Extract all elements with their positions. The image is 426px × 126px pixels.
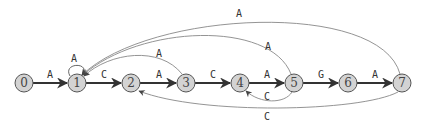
diagram-canvas: A C A C A G A A A A A C <box>0 0 426 126</box>
state-node-3: 3 <box>177 74 195 92</box>
edge-5-4: C <box>246 91 292 102</box>
state-label: 0 <box>20 76 28 90</box>
state-node-4: 4 <box>231 74 249 92</box>
state-label: 7 <box>398 76 406 90</box>
edge-label: A <box>47 69 53 80</box>
state-label: 2 <box>127 76 135 90</box>
edge-3-4: C <box>195 69 230 83</box>
edge-label: A <box>71 53 77 64</box>
edge-label: A <box>372 69 378 80</box>
edge-6-7: A <box>357 69 392 83</box>
edge-0-1: A <box>33 69 67 83</box>
edge-label: G <box>318 69 324 80</box>
edge-label: A <box>265 41 271 52</box>
edge-1-1-self-loop: A <box>69 53 84 76</box>
state-node-2: 2 <box>122 74 140 92</box>
edge-4-5: A <box>249 69 284 83</box>
state-node-5: 5 <box>285 74 303 92</box>
automaton-diagram: A C A C A G A A A A A C <box>0 0 426 126</box>
edge-label: C <box>101 69 107 80</box>
edge-label: A <box>236 8 242 19</box>
edge-label: C <box>264 91 270 102</box>
edge-label: A <box>156 48 162 59</box>
edge-label: C <box>264 111 270 122</box>
edge-5-1: A <box>83 35 291 75</box>
state-node-6: 6 <box>339 74 357 92</box>
state-node-7: 7 <box>393 74 411 92</box>
state-label: 5 <box>290 76 298 90</box>
edge-label: C <box>210 69 216 80</box>
state-label: 6 <box>344 76 352 90</box>
state-node-0: 0 <box>15 74 33 92</box>
edge-7-1: A <box>82 8 400 75</box>
state-label: 3 <box>182 76 190 90</box>
state-label: 4 <box>236 76 244 90</box>
edge-label: A <box>156 69 162 80</box>
state-label: 1 <box>73 76 81 90</box>
edge-5-6: G <box>303 69 338 83</box>
state-node-1: 1 <box>68 74 86 92</box>
edge-2-3: A <box>140 69 176 83</box>
edge-label: A <box>264 69 270 80</box>
edge-1-2: C <box>86 69 121 83</box>
